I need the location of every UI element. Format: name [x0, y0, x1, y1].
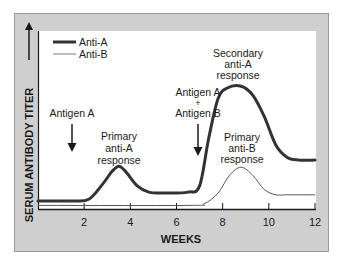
chart: 24681012 WEEKS SERUM ANTIBODY TITER Anti…	[0, 0, 343, 262]
y-axis-title-group: SERUM ANTIBODY TITER	[23, 22, 35, 222]
annotation-text: Antigen B	[175, 107, 221, 119]
annotation-text: anti-A	[105, 142, 132, 154]
annotation-text: response	[97, 154, 140, 166]
x-axis-title: WEEKS	[161, 233, 201, 245]
x-tick-label: 8	[220, 216, 226, 228]
up-arrow-icon	[25, 22, 33, 60]
x-tick-label: 2	[81, 216, 87, 228]
legend-label-anti-a: Anti-A	[79, 36, 108, 48]
x-tick-label: 4	[127, 216, 133, 228]
annotation-text: Antigen A	[50, 107, 95, 119]
annotation-text: response	[216, 69, 259, 81]
x-tick-label: 10	[263, 216, 275, 228]
annotation-text: Primary	[101, 130, 138, 142]
annotation-text: Antigen A	[176, 86, 221, 98]
x-tick-label: 12	[309, 216, 321, 228]
y-axis-title: SERUM ANTIBODY TITER	[23, 88, 35, 223]
annotation-text: response	[220, 153, 263, 165]
x-tick-label: 6	[173, 216, 179, 228]
legend-label-anti-b: Anti-B	[79, 48, 108, 60]
